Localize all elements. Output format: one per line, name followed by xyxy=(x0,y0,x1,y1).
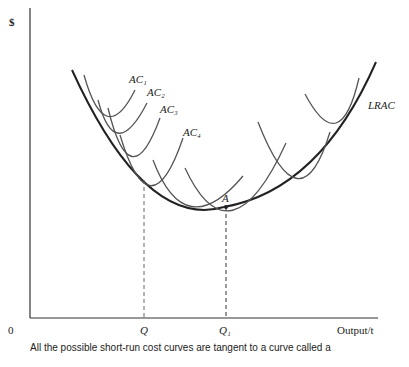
point-a-label: A xyxy=(222,192,229,204)
caption: All the possible short-run cost curves a… xyxy=(30,342,331,353)
y-axis-label: $ xyxy=(9,16,15,28)
ac3-label: AC₃ xyxy=(160,103,178,115)
origin-label: 0 xyxy=(8,324,14,336)
ac4-label: AC₄ xyxy=(183,126,201,138)
ac2-label: AC₂ xyxy=(147,86,165,98)
cost-curves-diagram xyxy=(0,0,409,367)
srac-curves xyxy=(84,75,359,211)
ac1-label: AC₁ xyxy=(129,73,147,85)
lrac-curve-right xyxy=(224,62,376,207)
x-tick-q1: Q₁ xyxy=(219,324,231,336)
x-axis-label: Output/t xyxy=(337,324,374,336)
x-tick-q: Q xyxy=(140,324,148,336)
lrac-label: LRAC xyxy=(368,99,395,111)
point-a xyxy=(224,205,228,209)
